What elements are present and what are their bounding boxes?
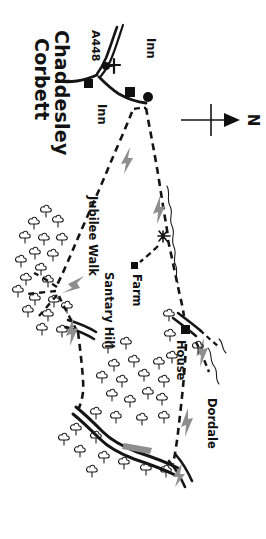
label-road-a448: A448: [89, 30, 102, 61]
building-marker-icon-west: [84, 79, 93, 88]
label-chaddesley: Chaddesley: [51, 30, 73, 156]
inn-marker-icon: [143, 92, 153, 102]
label-inn-top: Inn: [144, 38, 158, 59]
label-santary-hill: Santary Hill: [102, 272, 116, 348]
building-marker-icon-east: [125, 87, 135, 97]
house-marker-icon: [181, 325, 190, 334]
farm-marker-icon: [131, 262, 138, 269]
label-jubilee-walk: Jubilee Walk: [86, 195, 100, 276]
label-house: House: [174, 340, 188, 381]
label-dordale: Dordale: [205, 398, 219, 449]
hand-drawn-walk-map: N Chaddesley Corbett A448 Inn Inn Jubile…: [0, 0, 266, 539]
compass-north-label: N: [244, 114, 262, 127]
map-canvas: N Chaddesley Corbett A448 Inn Inn Jubile…: [0, 0, 266, 539]
label-corbett: Corbett: [31, 38, 53, 120]
label-farm: Farm: [130, 274, 144, 307]
label-inn-left: Inn: [95, 104, 109, 125]
